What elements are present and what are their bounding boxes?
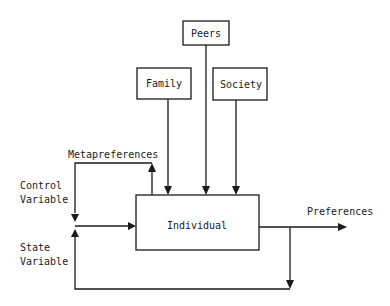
arrow-down-icon — [202, 186, 210, 195]
family-node: Family — [137, 68, 191, 99]
metapreferences-label: Metapreferences — [68, 149, 158, 160]
society-label: Society — [220, 79, 262, 90]
peers-node: Peers — [183, 21, 229, 45]
arrow-down-icon — [164, 186, 172, 195]
arrow-right-icon — [338, 223, 347, 231]
society-node: Society — [213, 68, 267, 100]
arrow-right-icon — [128, 222, 136, 230]
family-label: Family — [146, 78, 182, 89]
peers-label: Peers — [191, 28, 221, 39]
individual-label: Individual — [167, 220, 227, 231]
state-variable-label-line2: Variable — [20, 256, 68, 267]
state-variable-label-line1: State — [20, 242, 50, 253]
arrow-up-icon — [71, 229, 79, 237]
arrow-down-icon — [232, 186, 240, 195]
control-variable-label-line1: Control — [20, 180, 62, 191]
individual-node: Individual — [136, 195, 259, 250]
control-variable-label-line2: Variable — [20, 194, 68, 205]
preferences-label: Preferences — [307, 206, 373, 217]
input-edge — [75, 222, 136, 230]
preferences-output: Preferences — [259, 206, 373, 231]
arrow-down-icon — [286, 280, 294, 289]
arrow-down-icon — [71, 214, 79, 222]
arrow-up-icon — [148, 163, 156, 172]
preference-formation-diagram: Peers Family Society Individual Metapref… — [0, 0, 390, 306]
